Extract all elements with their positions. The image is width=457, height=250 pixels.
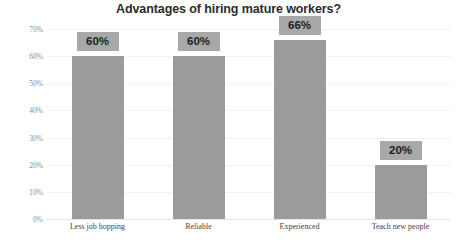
bar (274, 40, 326, 219)
y-axis-tick-label: 30% (0, 133, 43, 142)
bar-data-label: 60% (178, 32, 220, 51)
bar (72, 56, 124, 219)
x-axis-category-label: Teach new people (372, 222, 430, 231)
y-axis-tick-label: 20% (0, 160, 43, 169)
bar-data-label: 60% (77, 32, 119, 51)
bar-chart: Advantages of hiring mature workers? 0%1… (0, 0, 457, 250)
chart-title: Advantages of hiring mature workers? (0, 2, 457, 16)
x-axis-category-label: Experienced (280, 222, 320, 231)
axis-baseline (47, 219, 451, 220)
x-axis-category-label: Reliable (185, 222, 212, 231)
y-axis-tick-label: 50% (0, 79, 43, 88)
y-axis-tick-label: 70% (0, 25, 43, 34)
y-axis: 0%10%20%30%40%50%60%70% (0, 29, 43, 219)
bar-data-label: 20% (380, 141, 422, 160)
y-axis-tick-label: 60% (0, 52, 43, 61)
bar (375, 165, 427, 219)
bar-data-label: 66% (279, 16, 321, 35)
x-axis-category-label: Less job hopping (70, 222, 125, 231)
y-axis-tick-label: 0% (0, 215, 43, 224)
bar (173, 56, 225, 219)
gridline (47, 29, 451, 30)
x-axis: Less job hoppingReliableExperiencedTeach… (47, 222, 451, 242)
y-axis-tick-label: 40% (0, 106, 43, 115)
plot-area: 60%60%66%20% (47, 29, 451, 219)
y-axis-tick-label: 10% (0, 187, 43, 196)
